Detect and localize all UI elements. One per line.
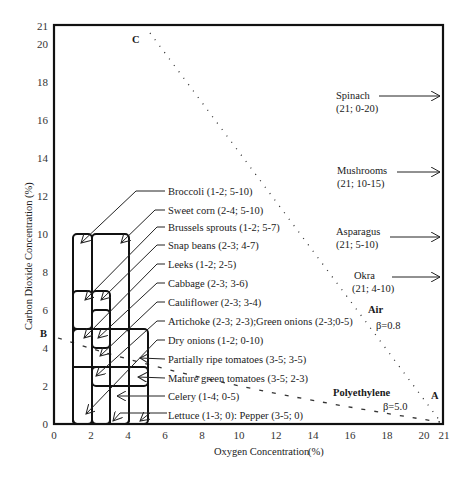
y-axis-ticks: 0 2 4 6 8 10 12 14 16 18 20 21 — [37, 20, 49, 430]
svg-text:Celery (1-4; 0-5): Celery (1-4; 0-5) — [168, 391, 240, 403]
svg-text:Artichoke (2-3; 2-3);Green oni: Artichoke (2-3; 2-3);Green onions (2-3;0… — [168, 316, 353, 328]
svg-text:21: 21 — [439, 429, 450, 441]
svg-text:(21; 10-15): (21; 10-15) — [337, 178, 385, 190]
svg-text:(21; 0-20): (21; 0-20) — [336, 103, 379, 115]
svg-text:Dry onions (1-2; 0-10): Dry onions (1-2; 0-10) — [168, 335, 264, 347]
svg-text:Okra: Okra — [354, 270, 375, 281]
svg-text:12: 12 — [37, 190, 48, 202]
svg-text:Cabbage (2-3; 3-6): Cabbage (2-3; 3-6) — [168, 278, 248, 290]
right-annotations: Spinach (21; 0-20) Mushrooms (21; 10-15)… — [336, 90, 440, 295]
air-beta-label: β=0.8 — [376, 320, 400, 331]
air-label: Air — [368, 304, 384, 315]
svg-text:10: 10 — [234, 429, 246, 441]
svg-text:20: 20 — [37, 38, 49, 50]
y-axis-title: Carbon Dioxide Concentration (%) — [23, 182, 35, 330]
svg-text:Snap beans (2-3; 4-7): Snap beans (2-3; 4-7) — [168, 240, 259, 252]
x-axis-ticks: 0 2 4 6 8 10 12 14 16 18 20 21 — [51, 429, 449, 441]
svg-text:18: 18 — [382, 429, 394, 441]
x-axis-title: Oxygen Concentration — [214, 446, 310, 457]
svg-text:12: 12 — [271, 429, 282, 441]
point-c-label: C — [132, 34, 140, 45]
svg-text:2: 2 — [88, 429, 94, 441]
svg-text:16: 16 — [37, 114, 49, 126]
svg-text:6: 6 — [43, 304, 49, 316]
svg-text:4: 4 — [43, 342, 49, 354]
svg-text:20: 20 — [419, 429, 431, 441]
svg-text:4: 4 — [125, 429, 131, 441]
svg-text:(21; 5-10): (21; 5-10) — [336, 239, 379, 251]
svg-text:Partially ripe tomatoes (3-5;: Partially ripe tomatoes (3-5; 3-5) — [168, 354, 307, 366]
svg-text:6: 6 — [162, 429, 168, 441]
svg-text:21: 21 — [37, 20, 48, 32]
svg-text:Mature green tomatoes (3-5; 2-: Mature green tomatoes (3-5; 2-3) — [168, 373, 308, 385]
svg-text:Brussels sprouts (1-2; 5-7): Brussels sprouts (1-2; 5-7) — [168, 222, 280, 234]
svg-text:18: 18 — [37, 76, 49, 88]
svg-text:Leeks (1-2; 2-5): Leeks (1-2; 2-5) — [168, 259, 237, 271]
commodity-labels: Broccoli (1-2; 5-10) Sweet corn (2-4; 5-… — [168, 186, 353, 422]
svg-text:Broccoli (1-2; 5-10): Broccoli (1-2; 5-10) — [168, 186, 253, 198]
svg-text:Spinach: Spinach — [336, 90, 371, 101]
svg-text:Lettuce (1-3; 0): Pepper (3-5;: Lettuce (1-3; 0): Pepper (3-5; 0) — [168, 410, 303, 422]
svg-text:0: 0 — [51, 429, 57, 441]
svg-text:Sweet corn (2-4; 5-10): Sweet corn (2-4; 5-10) — [168, 205, 264, 217]
svg-text:Cauliflower (2-3; 3-4): Cauliflower (2-3; 3-4) — [168, 297, 262, 309]
point-a-label: A — [431, 390, 439, 401]
svg-text:14: 14 — [37, 152, 49, 164]
svg-text:8: 8 — [199, 429, 205, 441]
svg-text:Mushrooms: Mushrooms — [337, 165, 387, 176]
svg-text:2: 2 — [43, 380, 49, 392]
point-b-label: B — [40, 328, 47, 339]
svg-text:8: 8 — [43, 266, 49, 278]
x-axis-unit: (%) — [308, 446, 324, 458]
svg-text:14: 14 — [308, 429, 320, 441]
svg-text:Asparagus: Asparagus — [336, 226, 380, 237]
ca-storage-chart: 0 2 4 6 8 10 12 14 16 18 20 21 0 2 4 6 8… — [0, 0, 472, 483]
svg-text:10: 10 — [37, 228, 49, 240]
polyethylene-beta-label: β=5.0 — [383, 401, 407, 412]
polyethylene-label: Polyethylene — [333, 387, 390, 398]
svg-text:16: 16 — [345, 429, 357, 441]
svg-text:0: 0 — [43, 418, 49, 430]
svg-text:(21; 4-10): (21; 4-10) — [352, 283, 395, 295]
